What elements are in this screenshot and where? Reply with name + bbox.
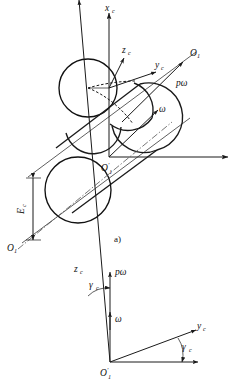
svg-text:E: E — [16, 208, 26, 215]
svg-text:c: c — [161, 64, 164, 71]
svg-text:c: c — [203, 325, 206, 332]
svg-text:1: 1 — [14, 247, 17, 254]
svg-text:x: x — [104, 3, 110, 13]
svg-text:c: c — [20, 204, 27, 207]
upper-vector-pomega-label: pω — [175, 78, 188, 88]
lower-axis-zc-label: z c — [73, 264, 83, 275]
svg-text:1: 1 — [197, 52, 200, 59]
upper-pole-o1-label: O 1 — [190, 48, 200, 59]
lower-angle-right-label: γ c — [182, 342, 192, 353]
svg-text:′: ′ — [108, 161, 110, 168]
svg-text:y: y — [154, 60, 160, 70]
lower-vector-omega-label: ω — [115, 314, 122, 324]
svg-text:ω: ω — [115, 314, 122, 324]
svg-text:1: 1 — [109, 168, 112, 175]
upper-axis-yc-label: y c — [154, 60, 164, 71]
guide-line-lower — [22, 118, 190, 243]
svg-text:pω: pω — [175, 78, 188, 88]
lower-vector-pomega-label: pω — [114, 267, 127, 277]
svg-text:′: ′ — [107, 366, 109, 373]
upper-axis-xc-label: x c — [104, 3, 115, 14]
upper-vector-omega-label: ω — [159, 104, 166, 114]
vector-omega-arrow — [109, 110, 158, 157]
svg-text:y: y — [196, 321, 202, 331]
svg-text:γ: γ — [182, 342, 186, 352]
svg-text:c: c — [189, 346, 192, 353]
svg-text:O: O — [100, 368, 107, 378]
lower-axis-yc-label: y c — [196, 321, 206, 332]
caption-a: a) — [114, 234, 121, 244]
svg-text:c: c — [80, 268, 83, 275]
technical-diagram-svg: x c z c y c O 1 pω ω O ′ 1 E c — [0, 0, 246, 382]
upper-roller-rear-arc-2 — [110, 118, 152, 130]
svg-text:O: O — [190, 48, 197, 58]
svg-text:pω: pω — [114, 267, 127, 277]
svg-text:c: c — [96, 284, 99, 291]
svg-text:1: 1 — [108, 373, 111, 380]
svg-text:z: z — [121, 45, 126, 55]
upper-pole-lower-o1-label: O 1 — [7, 243, 17, 254]
cylinder-rear-arc — [140, 83, 183, 150]
lower-origin-o1-prime-label: O ′ 1 — [100, 366, 111, 380]
svg-text:z: z — [73, 264, 78, 274]
cylinder-bottom-tangent — [72, 150, 157, 213]
lower-angle-left-label: γ c — [89, 280, 99, 291]
upper-dimension-ec-label: E c — [16, 204, 27, 215]
figure-container: x c z c y c O 1 pω ω O ′ 1 E c — [0, 0, 246, 382]
upper-diagram: x c z c y c O 1 pω ω O ′ 1 E c — [7, 3, 228, 254]
upper-axis-zc-label: z c — [121, 45, 131, 56]
svg-text:c: c — [112, 7, 115, 14]
svg-text:γ: γ — [89, 280, 93, 290]
svg-text:c: c — [128, 49, 131, 56]
svg-text:O: O — [7, 243, 14, 253]
svg-text:O: O — [101, 163, 108, 173]
upper-origin-o1-prime-label: O ′ 1 — [101, 161, 112, 175]
svg-text:ω: ω — [159, 104, 166, 114]
